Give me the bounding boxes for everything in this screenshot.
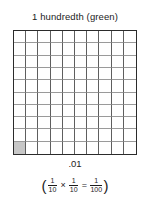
grid-cell — [99, 117, 111, 129]
grid-cell — [75, 80, 87, 92]
grid-cell — [124, 56, 136, 68]
grid-cell — [87, 105, 99, 117]
grid-cell — [26, 31, 38, 43]
grid-cell — [14, 105, 26, 117]
grid-cell — [14, 117, 26, 129]
grid-cell — [51, 117, 63, 129]
grid-cell — [112, 31, 124, 43]
grid-cell — [26, 93, 38, 105]
grid-cell — [87, 129, 99, 141]
grid-cell — [26, 56, 38, 68]
grid-cell — [51, 105, 63, 117]
grid-cell — [51, 31, 63, 43]
grid-cell — [14, 93, 26, 105]
hundredths-grid — [13, 30, 137, 155]
grid-cell — [75, 142, 87, 154]
grid-cell — [51, 142, 63, 154]
grid-cell — [75, 68, 87, 80]
grid-cell — [124, 31, 136, 43]
grid-cell — [75, 43, 87, 55]
grid-cell — [38, 105, 50, 117]
grid-cell — [63, 105, 75, 117]
fraction-1-denominator: 10 — [48, 186, 56, 194]
equals-symbol: = — [82, 179, 87, 191]
grid-cell — [63, 117, 75, 129]
grid-cell — [99, 56, 111, 68]
grid-cell — [87, 117, 99, 129]
grid-cell — [38, 68, 50, 80]
grid-cell — [112, 56, 124, 68]
grid-cell — [99, 142, 111, 154]
grid-cell — [38, 43, 50, 55]
grid-cell — [38, 129, 50, 141]
grid-cell — [87, 68, 99, 80]
grid-cell — [63, 80, 75, 92]
grid-cell — [99, 31, 111, 43]
grid-cell — [51, 129, 63, 141]
grid-cell — [99, 129, 111, 141]
grid-cell — [14, 129, 26, 141]
grid-cell — [38, 93, 50, 105]
grid-cell — [51, 43, 63, 55]
grid-cell — [99, 105, 111, 117]
grid-cell — [51, 93, 63, 105]
grid-cell — [75, 105, 87, 117]
grid-cell — [14, 68, 26, 80]
fraction-term-3: 1 100 — [90, 177, 102, 193]
fraction-equation: ( 1 10 × 1 10 = 1 100 ) — [0, 177, 150, 193]
grid-cell — [99, 43, 111, 55]
fraction-2-denominator: 10 — [70, 186, 78, 194]
fraction-1-numerator: 1 — [50, 177, 54, 185]
grid-cell — [63, 31, 75, 43]
grid-cell — [63, 43, 75, 55]
grid-cell — [75, 31, 87, 43]
grid-cell — [51, 56, 63, 68]
grid-cell — [38, 142, 50, 154]
fraction-term-1: 1 10 — [48, 177, 57, 193]
grid-cell — [14, 31, 26, 43]
grid-cell — [63, 129, 75, 141]
decimal-value-label: .01 — [0, 158, 150, 170]
grid-cell — [87, 56, 99, 68]
grid-cell — [14, 80, 26, 92]
grid-cell — [87, 142, 99, 154]
grid-cell — [124, 142, 136, 154]
grid-cell — [87, 43, 99, 55]
grid-cell — [75, 93, 87, 105]
grid-cell — [63, 142, 75, 154]
figure-title: 1 hundredth (green) — [0, 11, 150, 23]
grid-cell — [26, 43, 38, 55]
grid-cell — [112, 105, 124, 117]
fraction-2-numerator: 1 — [72, 177, 76, 185]
grid-cell — [63, 56, 75, 68]
grid-cell — [87, 31, 99, 43]
grid-cell — [14, 56, 26, 68]
grid-cell — [112, 129, 124, 141]
grid-cell — [14, 43, 26, 55]
grid-cell — [99, 80, 111, 92]
grid-cell — [51, 68, 63, 80]
close-paren: ) — [103, 178, 109, 193]
grid-cell — [124, 93, 136, 105]
grid-cell — [112, 117, 124, 129]
multiply-symbol: × — [60, 179, 65, 191]
grid-cell — [26, 105, 38, 117]
grid-cell — [63, 68, 75, 80]
open-paren: ( — [41, 178, 47, 193]
fraction-term-2: 1 10 — [69, 177, 78, 193]
grid-cell — [75, 117, 87, 129]
grid-cell — [26, 129, 38, 141]
hundredths-grid-figure: 1 hundredth (green) .01 ( 1 10 × 1 10 = … — [0, 0, 150, 204]
grid-cell — [26, 68, 38, 80]
grid-cell — [124, 129, 136, 141]
grid-cell — [26, 117, 38, 129]
grid-cell — [26, 80, 38, 92]
grid-cell — [112, 93, 124, 105]
grid-cell — [75, 56, 87, 68]
grid-cell — [99, 68, 111, 80]
grid-cell — [124, 105, 136, 117]
fraction-3-denominator: 100 — [90, 186, 102, 194]
grid-cell — [112, 43, 124, 55]
fraction-3-numerator: 1 — [94, 177, 98, 185]
grid-cell — [14, 142, 26, 154]
